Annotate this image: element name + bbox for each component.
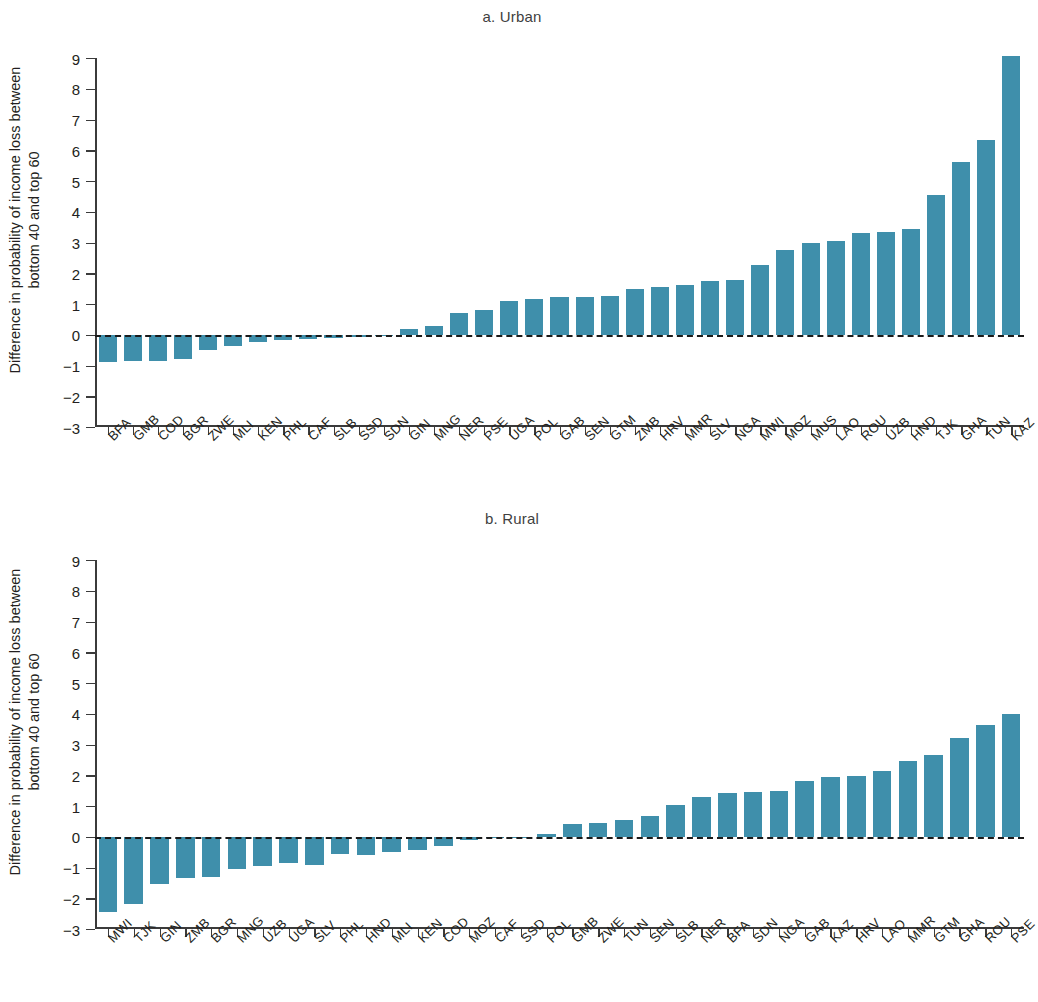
zero-reference-line bbox=[95, 335, 1024, 337]
bar-slot bbox=[221, 58, 246, 427]
y-axis-label-line2: bottom 40 and top 60 bbox=[26, 653, 42, 790]
bar bbox=[827, 241, 845, 335]
bar bbox=[150, 837, 169, 885]
bar bbox=[924, 755, 943, 836]
y-axis-tick: 2 bbox=[86, 775, 95, 776]
bar-slot bbox=[622, 58, 647, 427]
y-axis-tick-label: −1 bbox=[63, 358, 80, 375]
bar-slot bbox=[924, 58, 949, 427]
bar-slot bbox=[611, 560, 637, 929]
y-axis-tick-label: 4 bbox=[72, 204, 80, 221]
bar-slot bbox=[999, 58, 1024, 427]
y-axis-tick: −3 bbox=[86, 929, 95, 930]
y-axis-tick: −1 bbox=[86, 868, 95, 869]
bar-slot bbox=[974, 58, 999, 427]
bar-slot bbox=[585, 560, 611, 929]
bar-series-urban bbox=[95, 58, 1024, 427]
y-axis-tick: 6 bbox=[86, 652, 95, 653]
bar bbox=[1002, 714, 1021, 836]
bar bbox=[950, 738, 969, 836]
bar bbox=[626, 289, 644, 335]
chart-panel-urban: a. Urban Difference in probability of in… bbox=[0, 0, 1024, 500]
bar bbox=[176, 837, 195, 879]
bar bbox=[357, 837, 376, 855]
bar-slot bbox=[773, 58, 798, 427]
bar bbox=[174, 335, 192, 360]
bar-slot bbox=[447, 58, 472, 427]
bar-slot bbox=[698, 58, 723, 427]
bar bbox=[976, 725, 995, 837]
bar bbox=[847, 776, 866, 837]
bar bbox=[99, 837, 118, 912]
bar-slot bbox=[766, 560, 792, 929]
bar bbox=[877, 232, 895, 335]
bar bbox=[751, 265, 769, 335]
bar-slot bbox=[663, 560, 689, 929]
bar bbox=[525, 299, 543, 335]
bar-slot bbox=[95, 560, 121, 929]
y-axis-tick-label: 2 bbox=[72, 265, 80, 282]
bar bbox=[899, 761, 918, 836]
bar-slot bbox=[869, 560, 895, 929]
y-axis-label-line1: Difference in probability of income loss… bbox=[7, 569, 23, 876]
bar-slot bbox=[560, 560, 586, 929]
panel-title-urban: a. Urban bbox=[0, 8, 1024, 25]
y-axis-tick: 6 bbox=[86, 150, 95, 151]
bar-slot bbox=[522, 58, 547, 427]
bar-slot bbox=[998, 560, 1024, 929]
bar bbox=[676, 285, 694, 335]
bar-slot bbox=[145, 58, 170, 427]
bar-slot bbox=[456, 560, 482, 929]
plot-area-rural: 9876543210−1−2−3 bbox=[95, 560, 1024, 929]
bar-slot bbox=[246, 58, 271, 427]
bar-slot bbox=[597, 58, 622, 427]
bar-slot bbox=[947, 560, 973, 929]
bar-slot bbox=[430, 560, 456, 929]
bar bbox=[873, 771, 892, 837]
bar bbox=[500, 301, 518, 335]
x-axis-labels-rural: MWITJKGINZMBBGRMNGUZBUGASLVPHLHNDMLIKENC… bbox=[95, 931, 1024, 991]
bar bbox=[952, 162, 970, 335]
bar-slot bbox=[346, 58, 371, 427]
bar-slot bbox=[823, 58, 848, 427]
bar bbox=[852, 233, 870, 334]
bar bbox=[228, 837, 247, 869]
bar bbox=[776, 250, 794, 335]
bar bbox=[615, 820, 634, 837]
bar-slot bbox=[321, 58, 346, 427]
y-axis-tick-label: 4 bbox=[72, 706, 80, 723]
bar-slot bbox=[873, 58, 898, 427]
y-axis-tick: 7 bbox=[86, 120, 95, 121]
bar-slot bbox=[421, 58, 446, 427]
bar-slot bbox=[301, 560, 327, 929]
chart-panel-rural: b. Rural Difference in probability of in… bbox=[0, 502, 1024, 1002]
bar bbox=[902, 229, 920, 335]
y-axis-tick-label: 5 bbox=[72, 675, 80, 692]
bar bbox=[770, 791, 789, 837]
y-axis-tick-label: 6 bbox=[72, 644, 80, 661]
x-axis-labels-urban: BFAGMBCODBGRZWEMLIKENPHLCAFSLBSSDSDNGINM… bbox=[95, 429, 1024, 489]
y-axis-tick: 3 bbox=[86, 243, 95, 244]
y-axis-tick: −2 bbox=[86, 898, 95, 899]
bar bbox=[927, 195, 945, 335]
y-axis-tick-label: 1 bbox=[72, 296, 80, 313]
bar-slot bbox=[798, 58, 823, 427]
bar-slot bbox=[396, 58, 421, 427]
y-axis-tick-label: 9 bbox=[72, 552, 80, 569]
bar bbox=[99, 335, 117, 363]
bar-slot bbox=[195, 58, 220, 427]
y-axis-tick: 3 bbox=[86, 745, 95, 746]
bar bbox=[744, 792, 763, 837]
bar-slot bbox=[120, 58, 145, 427]
bar-slot bbox=[327, 560, 353, 929]
y-axis-tick-label: 0 bbox=[72, 829, 80, 846]
bar bbox=[641, 816, 660, 837]
y-axis-tick-label: −2 bbox=[63, 388, 80, 405]
bar-slot bbox=[379, 560, 405, 929]
y-axis-tick-label: 1 bbox=[72, 798, 80, 815]
y-axis-tick: −2 bbox=[86, 396, 95, 397]
bar-slot bbox=[572, 58, 597, 427]
bar bbox=[550, 297, 568, 335]
bar bbox=[305, 837, 324, 865]
